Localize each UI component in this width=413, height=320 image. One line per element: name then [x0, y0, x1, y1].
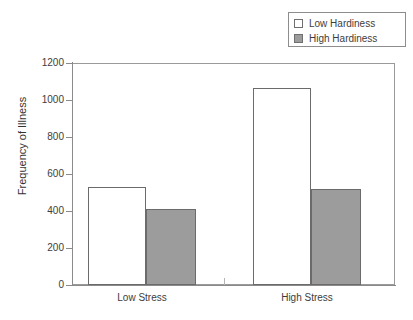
chart-legend: Low Hardiness High Hardiness	[288, 12, 406, 47]
y-tick-label-1200: 1200	[34, 58, 64, 68]
y-tick-400: 400	[30, 206, 64, 216]
legend-item-high-hardiness: High Hardiness	[294, 31, 405, 45]
legend-swatch-high-hardiness-icon	[294, 34, 303, 43]
y-axis-line	[72, 62, 73, 286]
y-tick-label-800: 800	[34, 132, 64, 142]
y-tick-600: 600	[30, 169, 64, 179]
y-axis-title: Frequency of Illness	[16, 76, 28, 216]
y-tick-label-0: 0	[34, 280, 64, 290]
bar-chart: Low Hardiness High Hardiness Frequency o…	[0, 0, 413, 320]
y-tick-label-400: 400	[34, 206, 64, 216]
bar-low-stress-high-hardiness	[146, 209, 196, 285]
bar-high-stress-high-hardiness	[311, 189, 361, 285]
y-tick-label-600: 600	[34, 169, 64, 179]
y-tick-200: 200	[30, 243, 64, 253]
legend-item-low-hardiness: Low Hardiness	[294, 16, 405, 30]
x-label-low-stress: Low Stress	[102, 292, 182, 304]
legend-label-high-hardiness: High Hardiness	[309, 33, 377, 44]
y-tick-label-200: 200	[34, 243, 64, 253]
group-divider-tick	[224, 278, 225, 285]
bar-low-stress-low-hardiness	[88, 187, 146, 285]
y-tick-label-1000: 1000	[34, 95, 64, 105]
y-tick-1200: 1200	[30, 58, 64, 68]
legend-swatch-low-hardiness-icon	[294, 19, 303, 28]
x-label-high-stress: High Stress	[267, 292, 347, 304]
legend-label-low-hardiness: Low Hardiness	[309, 18, 375, 29]
y-tick-800: 800	[30, 132, 64, 142]
y-tick-0: 0	[30, 280, 64, 290]
bar-high-stress-low-hardiness	[253, 88, 311, 285]
x-axis-line	[72, 285, 396, 286]
y-tick-1000: 1000	[30, 95, 64, 105]
